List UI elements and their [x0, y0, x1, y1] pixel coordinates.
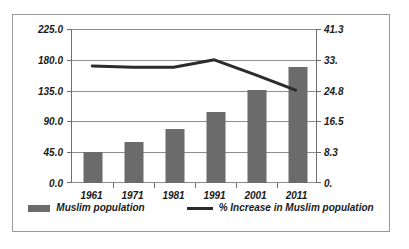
left-axis-tick-label: 135.0: [38, 87, 63, 97]
axis-tick: [236, 183, 237, 188]
left-axis-tick-label: 45.0: [44, 148, 63, 158]
right-axis: 41.3 33. 24.8 16.5 8.3 0.: [324, 29, 384, 183]
chart-frame: 225.0 180.0 135.0 90.0 45.0 0.0 41.3 33.…: [12, 14, 390, 232]
percent-increase-line: [72, 29, 316, 183]
left-axis: 225.0 180.0 135.0 90.0 45.0 0.0: [13, 29, 63, 183]
left-axis-tick-label: 180.0: [38, 56, 63, 66]
legend-label: % Increase in Muslim population: [219, 203, 374, 213]
left-axis-tick-label: 225.0: [38, 25, 63, 35]
left-axis-tick-label: 90.0: [44, 117, 63, 127]
legend-item-percent-increase: % Increase in Muslim population: [187, 203, 374, 213]
axis-tick: [113, 183, 114, 188]
axis-tick: [316, 60, 321, 61]
right-axis-tick-label: 41.3: [324, 25, 343, 35]
legend-item-muslim-population: Muslim population: [28, 203, 144, 213]
axis-tick: [316, 91, 321, 92]
axis-tick: [316, 121, 321, 122]
bar-swatch-icon: [28, 205, 50, 212]
chart-legend: Muslim population % Increase in Muslim p…: [13, 197, 389, 219]
right-axis-tick-label: 8.3: [324, 148, 338, 158]
axis-tick: [316, 152, 321, 153]
axis-tick: [154, 183, 155, 188]
axis-tick: [277, 183, 278, 188]
right-axis-tick-label: 24.8: [324, 87, 343, 97]
right-axis-tick-label: 16.5: [324, 117, 343, 127]
line-path: [92, 60, 295, 90]
axis-tick: [316, 29, 321, 30]
left-axis-tick-label: 0.0: [49, 179, 63, 189]
legend-label: Muslim population: [56, 203, 144, 213]
right-axis-tick-label: 33.: [324, 56, 338, 66]
line-swatch-icon: [187, 207, 213, 210]
right-axis-tick-label: 0.: [324, 179, 332, 189]
plot-area: [71, 29, 317, 183]
axis-tick: [195, 183, 196, 188]
axis-tick: [316, 182, 321, 183]
